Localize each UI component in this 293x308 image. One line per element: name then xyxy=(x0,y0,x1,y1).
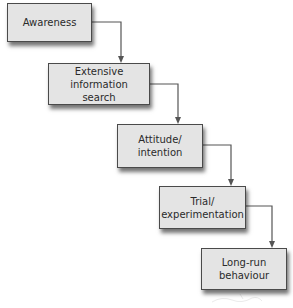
node-attitude-intention: Attitude/ intention xyxy=(117,124,203,168)
edge-attitude-to-trial xyxy=(203,145,234,186)
edge-awareness-to-search xyxy=(92,22,124,63)
node-label: Attitude/ intention xyxy=(138,133,183,159)
node-label: Trial/ experimentation xyxy=(161,195,244,221)
edge-trial-to-longrun xyxy=(246,206,275,248)
edge-search-to-attitude xyxy=(150,84,181,124)
diagram-canvas: Awareness Extensive information search A… xyxy=(0,0,293,308)
node-awareness: Awareness xyxy=(7,3,92,42)
node-label: Extensive information search xyxy=(52,65,146,104)
pencil-scribble xyxy=(212,294,262,302)
node-trial-experimentation: Trial/ experimentation xyxy=(159,186,246,229)
node-long-run-behaviour: Long-run behaviour xyxy=(201,248,287,290)
node-extensive-information-search: Extensive information search xyxy=(48,63,150,105)
node-label: Long-run behaviour xyxy=(219,256,269,282)
node-label: Awareness xyxy=(23,16,77,29)
